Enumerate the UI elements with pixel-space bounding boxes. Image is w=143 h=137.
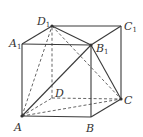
vertex-dot-d1 xyxy=(50,24,53,27)
vertex-label-b1: B1 xyxy=(95,42,109,56)
vertex-dot-c xyxy=(119,97,122,100)
vertex-dots xyxy=(20,24,122,117)
edge-a-b1 xyxy=(22,45,91,116)
vertex-subscript: 1 xyxy=(132,26,136,34)
edge-a-d1-dashed xyxy=(22,26,52,116)
edge-d1-b1 xyxy=(52,26,91,45)
vertex-label-a: A xyxy=(13,121,22,134)
vertex-dot-b1 xyxy=(89,43,92,46)
vertex-dot-a xyxy=(20,114,23,117)
vertex-label-c: C xyxy=(124,94,133,107)
vertex-label-d1: D1 xyxy=(36,15,50,29)
vertex-subscript: 1 xyxy=(17,43,21,51)
hidden-edges xyxy=(22,26,121,116)
vertex-subscript: 1 xyxy=(104,48,108,56)
vertex-label-d: D xyxy=(54,87,64,100)
vertex-label-b: B xyxy=(85,122,94,135)
edge-a-b xyxy=(22,116,91,117)
vertex-label-a1: A1 xyxy=(8,37,21,51)
cube-diagram: ABCDA1B1C1D1 xyxy=(0,0,143,137)
edge-a1-b1 xyxy=(22,44,91,45)
vertex-subscript: 1 xyxy=(46,21,50,29)
vertex-label-c1: C1 xyxy=(124,20,137,34)
